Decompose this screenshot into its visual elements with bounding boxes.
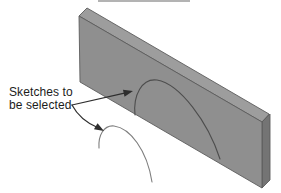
arrowhead-icon [94,123,106,134]
callout-arrow-lower-line [72,105,98,128]
callout-arrow-lower [72,105,106,134]
figure-canvas: Sketches to be selected [0,0,281,193]
sketch-arc-floating [99,126,152,182]
plate-side-face [262,114,270,188]
callout-label: Sketches to be selected [9,86,73,112]
callout-label-line2: be selected [9,99,73,112]
